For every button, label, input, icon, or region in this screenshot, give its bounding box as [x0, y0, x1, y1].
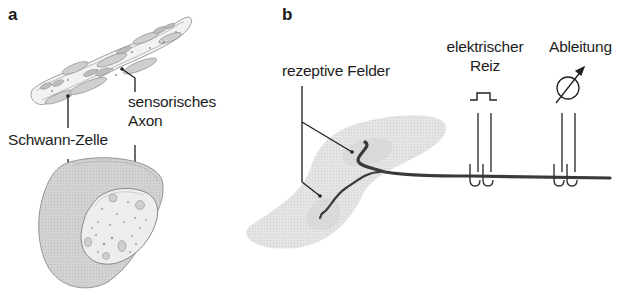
meter-dial-icon: [556, 67, 584, 103]
label-sensory-axon-line1: sensorisches: [128, 93, 216, 110]
label-electrical-stimulus-line2: Reiz: [437, 57, 533, 74]
label-sensory-axon-line2: Axon: [128, 112, 163, 129]
diagram-artwork: [0, 0, 637, 305]
label-recording: Ableitung: [549, 38, 612, 55]
label-electrical-stimulus-line1: elektrischer: [437, 38, 533, 55]
panel-letter-a: a: [8, 5, 17, 25]
label-receptive-fields: rezeptive Felder: [282, 62, 390, 79]
skin-patch: [246, 115, 446, 248]
recording-electrodes: [554, 113, 577, 186]
panel-letter-b: b: [282, 5, 292, 25]
label-schwann-cell: Schwann-Zelle: [8, 131, 108, 148]
square-pulse-icon: [470, 93, 497, 100]
nerve-fiber-cross-section: [39, 158, 163, 288]
